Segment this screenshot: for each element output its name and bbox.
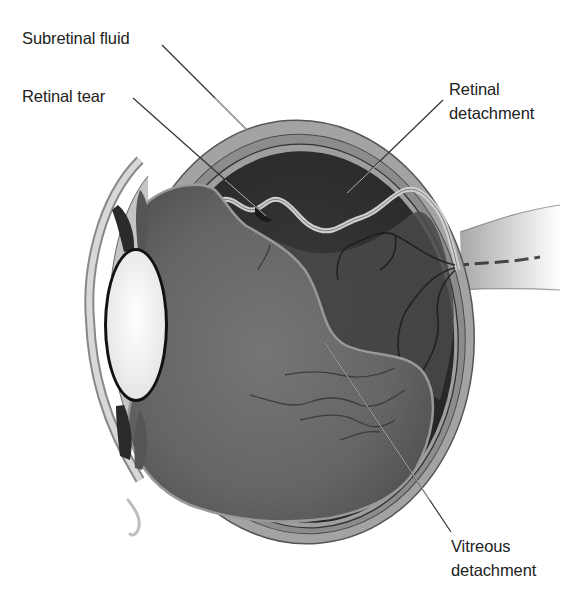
eyelid-fold — [128, 500, 139, 535]
label-subretinal-fluid: Subretinal fluid — [22, 26, 130, 50]
label-retinal-tear: Retinal tear — [22, 84, 105, 108]
label-vitreous-detachment: Vitreous detachment — [451, 534, 536, 582]
label-retinal-detachment: Retinal detachment — [449, 77, 534, 125]
optic-nerve — [455, 205, 560, 290]
lens — [104, 248, 168, 402]
